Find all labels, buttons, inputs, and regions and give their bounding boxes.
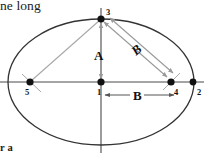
point-3-label: 3: [106, 7, 110, 17]
point-5-marker[interactable]: [26, 78, 33, 85]
guide-left-focus-to-top-icon: [31, 20, 100, 81]
measure-B-diagonal-label: B: [127, 41, 144, 59]
measure-A-label: A: [94, 48, 104, 63]
measure-B-diagonal-group: B: [104, 18, 173, 77]
point-3-marker[interactable]: [97, 15, 104, 22]
point-1-marker[interactable]: [97, 78, 104, 85]
measure-B-horizontal-group: B B: [105, 88, 174, 103]
point-2-label: 2: [197, 87, 201, 97]
ellipse-geometry-diagram: A B B B 1 2 3 4 5: [0, 0, 204, 156]
point-1-label: 1: [97, 87, 101, 97]
point-5-label: 5: [25, 87, 29, 97]
measure-B-diagonal-arrow-lower-icon: [110, 18, 173, 73]
measure-A-group: A: [94, 23, 104, 79]
point-2-marker[interactable]: [190, 79, 197, 86]
measure-B-horizontal-label-text: B: [133, 88, 142, 103]
point-4-label: 4: [174, 87, 179, 97]
point-4-marker[interactable]: [167, 78, 174, 85]
